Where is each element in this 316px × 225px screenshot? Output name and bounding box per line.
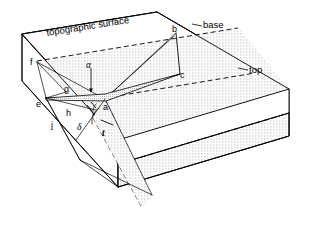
block-diagram-svg: topographic surface base top f g e a b c… [0,0,316,225]
block-diagram-figure: topographic surface base top f g e a b c… [0,0,316,225]
point-label-g: g [64,84,69,94]
point-label-a: a [103,102,108,112]
point-label-j: j [50,120,53,130]
thickness-label-t: t [102,128,105,138]
point-label-e: e [36,99,41,109]
base-leader-line [192,24,202,26]
point-label-h: h [66,108,71,118]
top-label: top [249,64,262,75]
point-label-c: c [180,70,185,80]
point-label-b: b [172,24,177,34]
base-label: base [203,19,224,30]
delta-label: δ [77,122,82,132]
